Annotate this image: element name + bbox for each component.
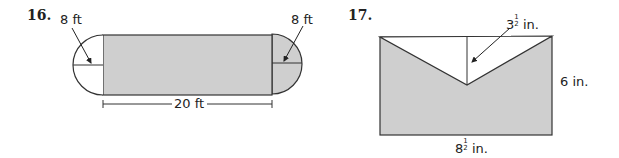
center-rectangle <box>103 35 272 95</box>
figure-17 <box>380 28 552 135</box>
left-radius-label: 8 ft <box>60 12 82 27</box>
problem-16-number: 16. <box>27 7 51 23</box>
problem-17-number: 17. <box>348 7 372 23</box>
right-radius-label: 8 ft <box>291 12 313 27</box>
triangle-height-label: 312 in. <box>506 14 539 32</box>
length-label: 20 ft <box>174 96 204 111</box>
side-label: 6 in. <box>560 74 588 89</box>
right-semicircle <box>272 34 302 94</box>
base-label: 812 in. <box>455 138 488 156</box>
